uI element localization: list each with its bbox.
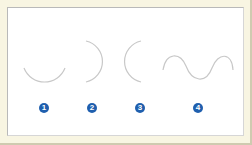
- badge-2: 2: [87, 103, 97, 113]
- curve-4-s-wave: [163, 56, 233, 79]
- curves-canvas: [0, 0, 252, 145]
- curve-3-arc-right: [125, 41, 141, 82]
- badge-3: 3: [135, 103, 145, 113]
- badge-1: 1: [39, 103, 49, 113]
- curve-1-arc-up: [24, 68, 65, 82]
- curve-2-arc-left: [86, 41, 102, 82]
- badge-4: 4: [193, 103, 203, 113]
